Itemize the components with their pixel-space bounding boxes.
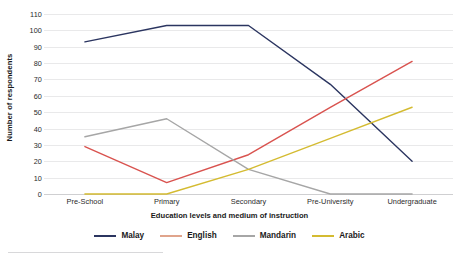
line-chart: Number of respondents 010203040506070809… [0, 0, 459, 258]
legend-item-mandarin[interactable]: Mandarin [233, 231, 296, 240]
y-axis-tick-label: 10 [16, 173, 42, 182]
plot-area [44, 14, 453, 194]
series-line-arabic [85, 107, 412, 194]
legend-swatch-icon [160, 235, 182, 237]
x-axis-ticks: Pre-SchoolPrimarySecondaryPre-University… [44, 194, 453, 210]
legend-label: Mandarin [260, 231, 296, 240]
legend-swatch-icon [312, 235, 334, 237]
legend-label: Malay [121, 231, 144, 240]
y-axis-tick-label: 30 [16, 140, 42, 149]
y-axis-tick-label: 80 [16, 59, 42, 68]
x-axis-title: Education levels and medium of instructi… [0, 211, 459, 220]
series-line-english [85, 61, 412, 182]
legend-item-english[interactable]: English [160, 231, 217, 240]
y-axis-tick-label: 100 [16, 26, 42, 35]
legend-swatch-icon [94, 235, 116, 237]
legend-label: English [187, 231, 217, 240]
x-axis-tick-label: Pre-School [67, 197, 104, 206]
legend-item-arabic[interactable]: Arabic [312, 231, 364, 240]
footer-divider [8, 252, 163, 253]
y-axis-tick-label: 0 [16, 190, 42, 199]
x-axis-tick-label: Primary [154, 197, 179, 206]
y-axis-tick-label: 70 [16, 75, 42, 84]
y-axis-tick-label: 20 [16, 157, 42, 166]
series-line-malay [85, 25, 412, 161]
y-axis-tick-label: 60 [16, 91, 42, 100]
series-lines [44, 14, 453, 194]
legend-item-malay[interactable]: Malay [94, 231, 144, 240]
x-axis-tick-label: Secondary [231, 197, 266, 206]
legend-swatch-icon [233, 235, 255, 237]
y-axis-tick-label: 50 [16, 108, 42, 117]
x-axis-tick-label: Pre-University [307, 197, 353, 206]
series-line-mandarin [85, 119, 412, 194]
chart-legend: MalayEnglishMandarinArabic [0, 231, 459, 240]
y-axis-ticks: 0102030405060708090100110 [12, 0, 42, 195]
y-axis-tick-label: 90 [16, 42, 42, 51]
x-axis-tick-label: Undergraduate [387, 197, 436, 206]
y-axis-tick-label: 110 [16, 10, 42, 19]
legend-label: Arabic [339, 231, 364, 240]
y-axis-tick-label: 40 [16, 124, 42, 133]
